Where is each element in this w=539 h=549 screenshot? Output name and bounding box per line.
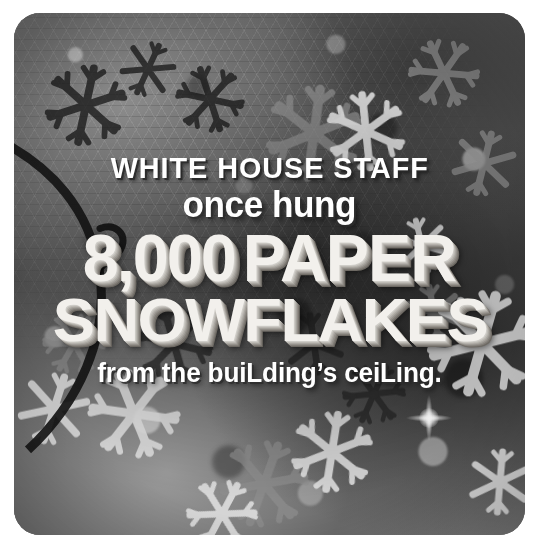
caption-line-2: once hung — [183, 186, 356, 223]
caption-line-4: SNOWFLAKES — [52, 289, 486, 351]
caption-line-5: from the buiLding’s ceiLing. — [97, 360, 441, 387]
caption-line-3: 8,000PAPER — [83, 225, 456, 291]
fact-card: WHITE HOUSE STAFF once hung 8,000PAPER S… — [0, 0, 539, 549]
caption-line-5-capital-l-1: L — [246, 358, 262, 388]
caption-line-1: WHITE HOUSE STAFF — [110, 153, 428, 183]
caption-line-5-e: ing. — [396, 358, 442, 388]
photo-frame: WHITE HOUSE STAFF once hung 8,000PAPER S… — [14, 13, 525, 535]
caption-line-3-word: PAPER — [243, 221, 456, 295]
caption-line-5-capital-l-2: L — [380, 358, 396, 388]
caption-line-5-a: from the bui — [97, 358, 246, 388]
caption-block: WHITE HOUSE STAFF once hung 8,000PAPER S… — [14, 13, 525, 535]
snowflake-count: 8,000 — [83, 221, 235, 295]
caption-line-5-c: ding’s cei — [262, 358, 380, 388]
